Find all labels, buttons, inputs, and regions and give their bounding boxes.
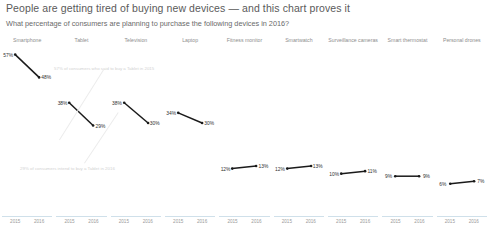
value-label: 48% — [41, 75, 51, 80]
panel-header-label: Smartphone — [0, 37, 54, 43]
value-label: 38% — [58, 100, 68, 105]
value-label: 7% — [477, 179, 484, 184]
value-label: 6% — [439, 181, 446, 186]
panel-smartwatch: Smartwatch12%13%20152016 — [272, 33, 326, 232]
panel-header-label: Tablet — [54, 37, 108, 43]
x-tick-label: 2015 — [10, 219, 20, 224]
panel-plot-area: 57%48% — [0, 47, 54, 199]
panel-x-ticks: 20152016 — [326, 219, 380, 231]
x-tick-label: 2016 — [143, 219, 153, 224]
x-tick-label: 2016 — [251, 219, 261, 224]
annotation-label-2: 29% of consumers intend to buy a Tablet … — [20, 166, 115, 171]
value-label: 9% — [423, 174, 430, 179]
x-tick-label: 2015 — [119, 219, 129, 224]
panel-smartphone: Smartphone57%48%20152016 — [0, 33, 54, 232]
x-tick-label: 2015 — [282, 219, 292, 224]
panel-laptop: Laptop34%30%20152016 — [163, 33, 217, 232]
x-tick-label: 2016 — [306, 219, 316, 224]
panel-x-ticks: 20152016 — [54, 219, 108, 231]
panel-x-ticks: 20152016 — [380, 219, 434, 231]
x-tick-label: 2016 — [414, 219, 424, 224]
panel-baseline — [111, 216, 161, 217]
panel-x-ticks: 20152016 — [109, 219, 163, 231]
panel-header-label: Television — [109, 37, 163, 43]
x-tick-label: 2015 — [64, 219, 74, 224]
panel-x-ticks: 20152016 — [163, 219, 217, 231]
value-label: 30% — [150, 121, 160, 126]
value-label: 30% — [204, 121, 214, 126]
value-label: 11% — [367, 169, 376, 174]
panel-x-ticks: 20152016 — [0, 219, 54, 231]
panel-plot-area: 34%30% — [163, 47, 217, 199]
value-label: 38% — [112, 100, 122, 105]
panel-header-label: Surveillance cameras — [326, 37, 380, 43]
x-tick-label: 2016 — [88, 219, 98, 224]
panel-fitness-monitor: Fitness monitor12%13%20152016 — [217, 33, 271, 232]
panel-smart-thermostat: Smart thermostat9%9%20152016 — [380, 33, 434, 232]
panel-header-label: Smartwatch — [272, 37, 326, 43]
panel-plot-area: 6%7% — [435, 47, 489, 199]
x-tick-label: 2016 — [197, 219, 207, 224]
panel-baseline — [274, 216, 324, 217]
panel-baseline — [165, 216, 215, 217]
panel-baseline — [382, 216, 432, 217]
x-tick-label: 2016 — [469, 219, 479, 224]
x-tick-label: 2015 — [173, 219, 183, 224]
panel-baseline — [2, 216, 52, 217]
panel-header-label: Personal drones — [435, 37, 489, 43]
slope-line — [0, 47, 54, 199]
panel-x-ticks: 20152016 — [272, 219, 326, 231]
panel-plot-area: 10%11% — [326, 47, 380, 199]
panel-header-label: Smart thermostat — [380, 37, 434, 43]
panel-plot-area: 12%13% — [217, 47, 271, 199]
panel-header-label: Fitness monitor — [217, 37, 271, 43]
panel-plot-area: 9%9% — [380, 47, 434, 199]
slope-line — [217, 47, 271, 199]
value-label: 13% — [259, 164, 269, 169]
page-title: People are getting tired of buying new d… — [6, 2, 350, 14]
panel-x-ticks: 20152016 — [217, 219, 271, 231]
panel-baseline — [437, 216, 487, 217]
slope-line — [272, 47, 326, 199]
x-tick-label: 2015 — [336, 219, 346, 224]
x-tick-label: 2016 — [360, 219, 370, 224]
panel-personal-drones: Personal drones6%7%20152016 — [435, 33, 489, 232]
panel-plot-area: 12%13% — [272, 47, 326, 199]
panel-television: Television38%30%20152016 — [109, 33, 163, 232]
page-subtitle: What percentage of consumers are plannin… — [6, 19, 289, 28]
panel-baseline — [328, 216, 378, 217]
panel-baseline — [56, 216, 106, 217]
slope-line — [326, 47, 380, 199]
x-tick-label: 2016 — [34, 219, 44, 224]
x-tick-label: 2015 — [445, 219, 455, 224]
annotation-label-1: 57% of consumers who said to buy a Table… — [54, 66, 154, 71]
panel-x-ticks: 20152016 — [435, 219, 489, 231]
value-label: 34% — [166, 110, 176, 115]
value-label: 12% — [275, 166, 285, 171]
value-label: 10% — [329, 171, 339, 176]
chart-panels: Smartphone57%48%20152016Tablet38%29%2015… — [0, 33, 489, 232]
value-label: 12% — [221, 166, 231, 171]
panel-surveillance-cameras: Surveillance cameras10%11%20152016 — [326, 33, 380, 232]
value-label: 57% — [3, 52, 13, 57]
x-tick-label: 2015 — [390, 219, 400, 224]
value-label: 13% — [313, 164, 323, 169]
value-label: 9% — [385, 174, 392, 179]
slope-line — [435, 47, 489, 199]
panel-baseline — [219, 216, 269, 217]
x-tick-label: 2015 — [227, 219, 237, 224]
panel-header-label: Laptop — [163, 37, 217, 43]
value-label: 29% — [96, 123, 106, 128]
